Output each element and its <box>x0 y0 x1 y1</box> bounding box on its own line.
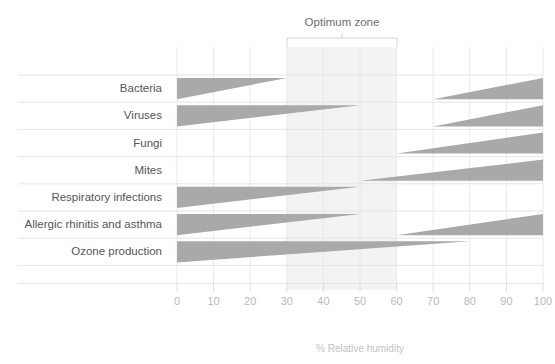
row-label-layer: BacteriaVirusesFungiMitesRespiratory inf… <box>25 82 163 257</box>
x-tick-label-30: 30 <box>281 295 293 307</box>
row-label-bacteria: Bacteria <box>120 82 163 94</box>
humidity-chart: Optimum zone BacteriaVirusesFungiMitesRe… <box>0 0 555 364</box>
x-tick-label-20: 20 <box>244 295 256 307</box>
x-tick-label-40: 40 <box>317 295 329 307</box>
x-axis-title: % Relative humidity <box>316 343 404 354</box>
x-tick-label-60: 60 <box>390 295 402 307</box>
row-label-mites: Mites <box>135 164 163 176</box>
x-tick-label-70: 70 <box>427 295 439 307</box>
optimum-zone-band <box>287 47 397 290</box>
x-tick-label-100: 100 <box>534 295 552 307</box>
chart-canvas: Optimum zone BacteriaVirusesFungiMitesRe… <box>0 0 555 364</box>
optimum-zone-title: Optimum zone <box>305 16 380 28</box>
row-label-ozone-production: Ozone production <box>71 245 162 257</box>
x-tick-label-10: 10 <box>207 295 219 307</box>
x-tick-label-90: 90 <box>500 295 512 307</box>
wedge-bacteria-0 <box>177 78 287 99</box>
row-label-respiratory-infections: Respiratory infections <box>51 191 162 203</box>
optimum-zone-bracket <box>287 33 397 47</box>
x-tick-label-50: 50 <box>354 295 366 307</box>
x-tick-label-80: 80 <box>464 295 476 307</box>
x-tick-label-0: 0 <box>174 295 180 307</box>
row-label-allergic-rhinitis-and-asthma: Allergic rhinitis and asthma <box>25 218 163 230</box>
wedge-viruses-1 <box>433 105 543 126</box>
wedge-bacteria-1 <box>433 78 543 99</box>
row-label-fungi: Fungi <box>133 137 162 149</box>
row-label-viruses: Viruses <box>124 109 162 121</box>
